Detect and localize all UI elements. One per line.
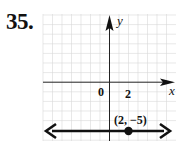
origin-label: 0 [98, 85, 104, 99]
point-marker [124, 127, 132, 135]
point-label: (2, −5) [114, 113, 147, 127]
horizontal-line [46, 124, 170, 138]
coordinate-graph: y x 0 2 (2, −5) [0, 0, 176, 141]
x-axis-label: x [168, 83, 175, 98]
x-tick-label: 2 [125, 87, 131, 101]
y-axis-label: y [115, 13, 123, 28]
